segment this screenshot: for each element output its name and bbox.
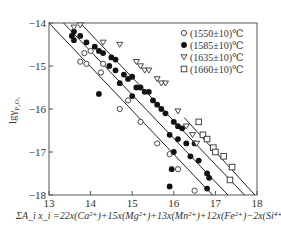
- open-circle-marker: [138, 119, 143, 124]
- x-tick-label: 15: [127, 197, 139, 209]
- filled-circle-marker: [113, 57, 119, 63]
- filled-circle-marker: [158, 106, 164, 112]
- fit-line: [49, 23, 212, 195]
- filled-circle-marker: [150, 98, 156, 104]
- filled-circle-marker: [154, 102, 160, 108]
- filled-circle-marker: [146, 89, 152, 95]
- filled-circle-marker: [117, 80, 123, 86]
- legend: (1550±10)℃(1585±10)℃(1635±10)℃(1660±10)℃: [181, 28, 243, 76]
- y-tick-label: −17: [29, 146, 47, 158]
- y-tick-label: −15: [29, 60, 47, 72]
- open-square-marker: [221, 154, 227, 160]
- open-triangle-marker: [181, 55, 187, 60]
- open-circle-marker: [175, 167, 180, 172]
- open-circle-marker: [98, 70, 103, 75]
- filled-circle-marker: [77, 33, 83, 39]
- open-square-marker: [227, 177, 233, 183]
- open-square-marker: [204, 136, 210, 142]
- filled-circle-marker: [106, 63, 112, 69]
- filled-circle-marker: [84, 39, 90, 45]
- filled-circle-marker: [181, 42, 187, 48]
- x-tick-label: 17: [210, 197, 222, 209]
- filled-circle-marker: [167, 184, 173, 190]
- filled-circle-marker: [171, 119, 177, 125]
- filled-circle-marker: [129, 93, 135, 99]
- open-triangle-marker: [162, 81, 168, 86]
- open-triangle-marker: [146, 68, 152, 73]
- chart: −14−15−16−17−18 131415161718 (1550±10)℃(…: [0, 0, 281, 233]
- open-circle-marker: [78, 59, 83, 64]
- filled-circle-marker: [169, 166, 175, 172]
- y-axis-label: lgγP₂O₅: [6, 96, 21, 124]
- filled-circle-marker: [175, 136, 181, 142]
- open-triangle-marker: [190, 133, 196, 138]
- legend-label: (1550±10)℃: [190, 28, 243, 40]
- open-circle-marker: [125, 98, 130, 103]
- filled-circle-marker: [71, 37, 77, 43]
- filled-circle-marker: [113, 67, 119, 73]
- filled-circle-marker: [138, 85, 144, 91]
- x-tick-label: 16: [168, 197, 180, 209]
- legend-label: (1585±10)℃: [190, 40, 243, 52]
- x-tick-label: 13: [44, 197, 56, 209]
- filled-circle-marker: [171, 149, 177, 155]
- filled-circle-marker: [96, 91, 102, 97]
- open-square-marker: [229, 164, 235, 170]
- open-square-marker: [181, 66, 187, 72]
- open-circle-marker: [181, 30, 186, 35]
- filled-circle-marker: [121, 72, 127, 78]
- fit-line: [184, 118, 255, 195]
- y-tick-label: −16: [29, 103, 47, 115]
- filled-circle-marker: [100, 50, 106, 56]
- filled-circle-marker: [196, 158, 202, 164]
- open-circle-marker: [84, 61, 89, 66]
- y-tick-label: −14: [29, 17, 47, 29]
- filled-circle-marker: [92, 44, 98, 50]
- open-square-marker: [213, 149, 219, 155]
- filled-circle-marker: [206, 175, 212, 181]
- x-tick-label: 14: [85, 197, 97, 209]
- x-axis-label: ΣA_i x_i =22x(Ca²⁺)+15x(Mg²⁺)+13x(Mn²⁺)+…: [15, 210, 281, 222]
- filled-circle-marker: [129, 74, 135, 80]
- open-circle-marker: [100, 61, 105, 66]
- open-circle-marker: [82, 51, 87, 56]
- open-square-marker: [196, 119, 202, 125]
- open-triangle-marker: [175, 109, 181, 114]
- x-axis: 131415161718: [44, 191, 264, 209]
- filled-circle-marker: [204, 186, 210, 192]
- filled-circle-marker: [167, 132, 173, 138]
- open-circle-marker: [117, 106, 122, 111]
- filled-circle-marker: [188, 153, 194, 159]
- legend-label: (1635±10)℃: [190, 52, 243, 64]
- x-tick-label: 18: [252, 197, 264, 209]
- open-triangle-marker: [117, 42, 123, 47]
- filled-circle-marker: [163, 110, 169, 116]
- open-circle-marker: [192, 188, 197, 193]
- open-circle-marker: [88, 48, 93, 53]
- open-triangle-marker: [71, 25, 77, 30]
- filled-circle-marker: [183, 141, 189, 147]
- legend-label: (1660±10)℃: [190, 64, 243, 76]
- open-circle-marker: [155, 141, 160, 146]
